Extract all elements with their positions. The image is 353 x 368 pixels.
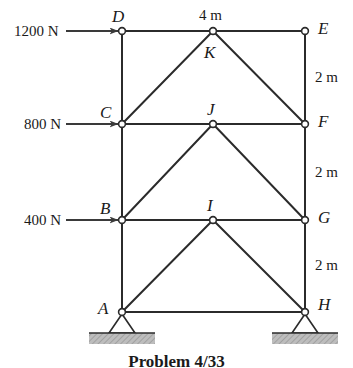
ground-hatch (272, 333, 338, 344)
truss-member-b-j (122, 124, 213, 220)
joint-label-d: D (112, 8, 124, 25)
truss-supports (89, 314, 338, 344)
support-triangle (292, 314, 318, 333)
joint-label-b: B (100, 200, 110, 217)
truss-members (122, 31, 305, 312)
joint-label-a: A (98, 300, 108, 317)
truss-member-c-k (122, 31, 213, 124)
joint-label-c: C (100, 104, 111, 121)
load-label-c: 800 N (24, 117, 61, 132)
load-label-b: 400 N (24, 213, 61, 228)
joint-i (210, 217, 217, 224)
joint-label-h: H (318, 296, 330, 313)
joint-e (302, 28, 309, 35)
joint-h (302, 309, 309, 316)
support-triangle (109, 314, 135, 333)
joint-label-i: I (207, 197, 213, 214)
joint-c (119, 121, 126, 128)
truss-member-a-i (122, 220, 213, 312)
dimension-label-height-g-h: 2 m (315, 258, 338, 273)
joint-j (210, 121, 217, 128)
ground-hatch (89, 333, 155, 344)
truss-member-k-f (213, 31, 305, 124)
joint-label-e: E (318, 20, 328, 37)
truss-joints (119, 28, 309, 316)
truss-member-i-h (213, 220, 305, 312)
joint-b (119, 217, 126, 224)
figure-caption: Problem 4/33 (0, 352, 353, 368)
pin-support-h (272, 314, 338, 344)
dimension-label-height-e-f: 2 m (315, 70, 338, 85)
joint-k (210, 28, 217, 35)
joint-label-k: K (204, 44, 215, 61)
dimension-label-span-top: 4 m (199, 8, 222, 23)
load-arrows (66, 31, 118, 220)
joint-label-f: F (318, 113, 328, 130)
joint-label-g: G (318, 209, 330, 226)
joint-a (119, 309, 126, 316)
dimension-label-height-f-g: 2 m (315, 165, 338, 180)
joint-label-j: J (207, 101, 215, 118)
pin-support-a (89, 314, 155, 344)
joint-d (119, 28, 126, 35)
joint-g (302, 217, 309, 224)
load-label-d: 1200 N (14, 24, 59, 39)
truss-member-j-g (213, 124, 305, 220)
joint-f (302, 121, 309, 128)
truss-diagram (0, 0, 353, 368)
